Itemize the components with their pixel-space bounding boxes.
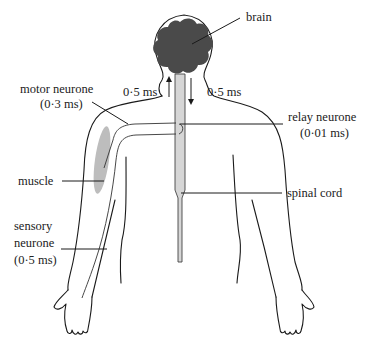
brain-label: brain	[246, 10, 272, 24]
motor-neurone-path	[104, 123, 176, 168]
relay-neurone-time: (0·01 ms)	[300, 126, 349, 140]
motor-neurone-label: motor neurone	[20, 82, 94, 96]
motor-neurone-time: (0·3 ms)	[40, 97, 83, 111]
downward-arrow	[188, 78, 194, 105]
ascending-time-label: 0·5 ms	[123, 85, 158, 99]
descending-time-label: 0·5 ms	[207, 85, 242, 99]
spinal-cord-label: spinal cord	[287, 186, 343, 200]
relay-neurone-label: relay neurone	[288, 110, 357, 124]
brain	[153, 18, 212, 73]
sensory-neurone-time: (0·5 ms)	[14, 253, 57, 267]
spinal-cord	[175, 74, 185, 262]
sensory-neurone-label-2: neurone	[14, 236, 55, 250]
reflex-arc-diagram: brain motor neurone (0·3 ms) 0·5 ms 0·5 …	[0, 0, 368, 346]
sensory-neurone-label-1: sensory	[14, 219, 53, 233]
upward-arrow	[166, 76, 172, 97]
muscle-label: muscle	[18, 174, 54, 188]
muscle-region	[90, 125, 113, 194]
motor-neurone-leader	[92, 102, 128, 124]
